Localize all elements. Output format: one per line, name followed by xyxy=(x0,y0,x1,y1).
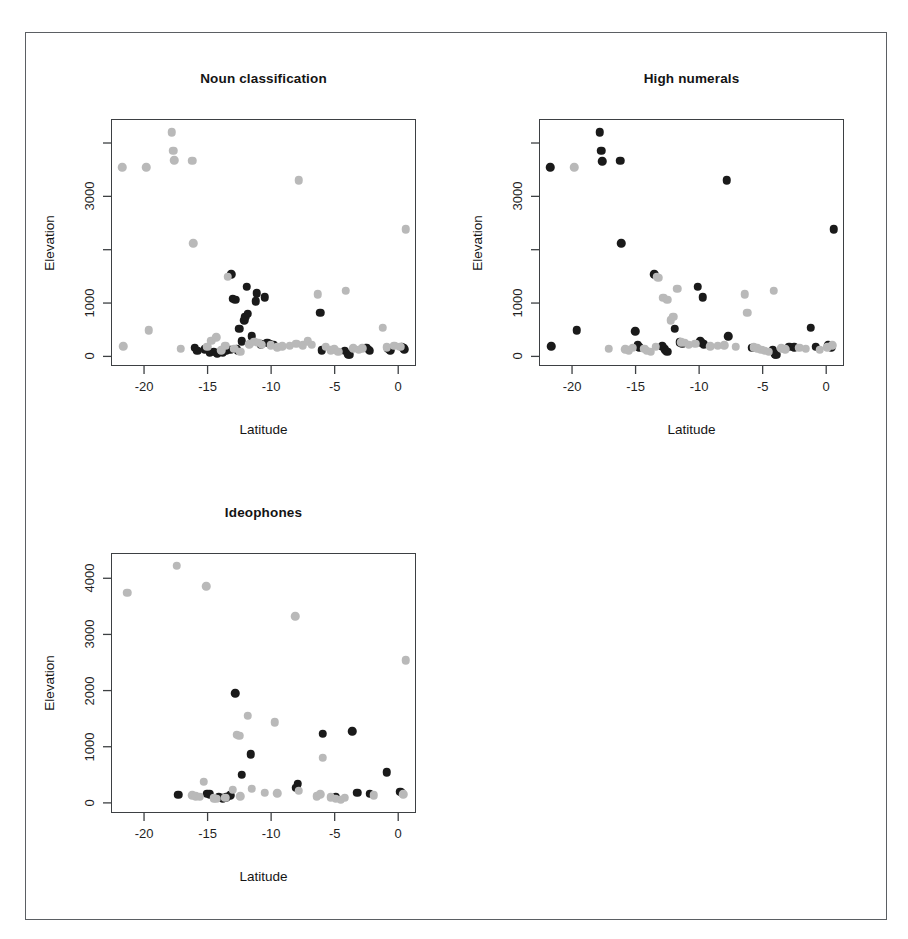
axis-ticks-ideophones xyxy=(26,33,888,921)
x-tick-label: -10 xyxy=(262,826,281,841)
panel-ideophones: Ideophones-20-15-10-5001000200030004000L… xyxy=(26,33,886,919)
y-axis-title-ideophones: Elevation xyxy=(42,655,57,711)
y-tick-label: 3000 xyxy=(82,620,97,649)
y-tick-label: 1000 xyxy=(82,732,97,761)
x-tick-label: -5 xyxy=(329,826,341,841)
figure-frame: Noun classification-20-15-10-50010003000… xyxy=(25,32,887,920)
x-tick-label: -15 xyxy=(198,826,217,841)
x-tick-label: 0 xyxy=(395,826,402,841)
y-tick-label: 0 xyxy=(82,799,97,806)
x-axis-title-ideophones: Latitude xyxy=(239,869,287,884)
y-tick-label: 2000 xyxy=(82,676,97,705)
y-tick-label: 4000 xyxy=(82,564,97,593)
x-tick-label: -20 xyxy=(135,826,154,841)
